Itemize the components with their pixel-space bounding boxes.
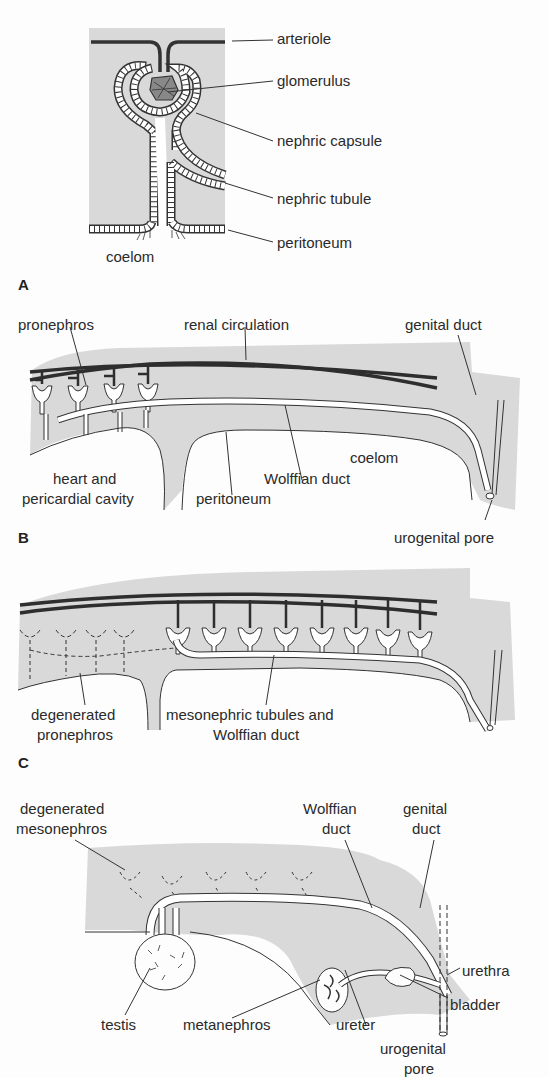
label-nephric-tubule: nephric tubule <box>277 190 371 208</box>
label-wolffian-line2: duct <box>322 820 350 838</box>
label-genital-line2: duct <box>412 820 440 838</box>
label-degenerated-mesonephros-line2: mesonephros <box>16 820 107 838</box>
label-pronephros: pronephros <box>18 316 94 334</box>
label-peritoneum: peritoneum <box>277 234 352 252</box>
label-heart-line2: pericardial cavity <box>22 490 134 508</box>
label-testis: testis <box>101 1016 136 1034</box>
label-urethra: urethra <box>462 962 510 980</box>
label-genital-duct: genital duct <box>405 316 482 334</box>
label-heart-line1: heart and <box>53 470 116 488</box>
label-genital-line1: genital <box>403 800 447 818</box>
label-wolffian-line1: Wolffian <box>303 800 357 818</box>
label-metanephros: metanephros <box>183 1016 271 1034</box>
kidney-development-diagram: arteriole glomerulus nephric capsule nep… <box>0 0 549 1077</box>
label-urogenital-line1: urogenital <box>380 1040 446 1058</box>
label-degenerated-pronephros-line1: degenerated <box>31 706 115 724</box>
label-coelom-b: coelom <box>350 449 398 467</box>
label-bladder: bladder <box>450 996 500 1014</box>
label-mesonephric-line1: mesonephric tubules and <box>166 706 334 724</box>
label-wolffian-duct-b: Wolffian duct <box>264 470 350 488</box>
panel-letter-c: C <box>18 754 29 771</box>
label-peritoneum-b: peritoneum <box>196 490 271 508</box>
label-renal-circulation: renal circulation <box>184 316 289 334</box>
label-urogenital-pore-b: urogenital pore <box>394 529 494 547</box>
label-arteriole: arteriole <box>277 30 331 48</box>
label-degenerated-pronephros-line2: pronephros <box>37 726 113 744</box>
label-ureter: ureter <box>336 1016 375 1034</box>
label-glomerulus: glomerulus <box>277 72 350 90</box>
panel-letter-b: B <box>18 529 29 546</box>
label-coelom: coelom <box>106 248 154 266</box>
panel-letter-a: A <box>18 276 29 293</box>
panel-d-metanephros <box>75 840 470 1036</box>
label-mesonephric-line2: Wolffian duct <box>213 726 299 744</box>
label-nephric-capsule: nephric capsule <box>277 132 382 150</box>
panel-a-nephron <box>89 28 273 242</box>
label-urogenital-line2: pore <box>404 1060 434 1077</box>
label-degenerated-mesonephros-line1: degenerated <box>20 800 104 818</box>
